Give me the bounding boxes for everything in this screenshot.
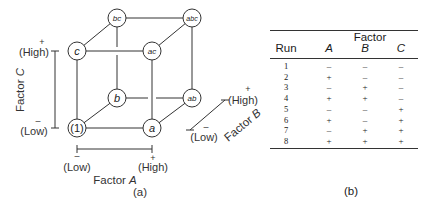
cell-a: – bbox=[319, 61, 339, 71]
figure-b-caption: (b) bbox=[344, 185, 358, 197]
factor-a-title: Factor A bbox=[93, 174, 137, 186]
cell-c: – bbox=[391, 72, 411, 82]
cell-a: + bbox=[319, 136, 339, 146]
cell-a: – bbox=[319, 104, 339, 114]
cube-node-abc: abc bbox=[183, 9, 201, 27]
cell-b: + bbox=[355, 136, 375, 146]
factor-a-low-sign: – bbox=[74, 151, 79, 161]
cell-c: – bbox=[391, 61, 411, 71]
cube-edges bbox=[77, 18, 192, 128]
cube-node-b: b bbox=[108, 89, 126, 107]
table-bottom-rule bbox=[270, 148, 418, 149]
cell-b: – bbox=[355, 104, 375, 114]
factor-b-high-label: (High) bbox=[228, 94, 258, 106]
cell-b: + bbox=[355, 93, 375, 103]
factor-c-axis bbox=[51, 51, 59, 128]
column-header-run: Run bbox=[270, 42, 302, 54]
column-header-c: C bbox=[391, 42, 411, 54]
cell-b: + bbox=[355, 125, 375, 135]
cell-c: – bbox=[391, 82, 411, 92]
cell-run: 7 bbox=[270, 125, 302, 135]
cell-a: – bbox=[319, 125, 339, 135]
cell-c: – bbox=[391, 93, 411, 103]
cell-b: – bbox=[355, 115, 375, 125]
cube-node-1: (1) bbox=[68, 119, 86, 137]
table-header-rule bbox=[270, 58, 418, 59]
cell-run: 2 bbox=[270, 72, 302, 82]
cube-node-ac: ac bbox=[143, 42, 161, 60]
cell-b: + bbox=[355, 82, 375, 92]
cube-node-c: c bbox=[68, 42, 86, 60]
factor-c-title: Factor C bbox=[14, 67, 26, 112]
cell-run: 4 bbox=[270, 93, 302, 103]
factor-a-axis bbox=[77, 145, 152, 153]
node-label: ac bbox=[148, 47, 156, 56]
cell-a: + bbox=[319, 93, 339, 103]
factor-c-high-label: (High) bbox=[19, 46, 49, 58]
cell-a: + bbox=[319, 115, 339, 125]
cube-node-ab: ab bbox=[183, 89, 201, 107]
cell-c: + bbox=[391, 136, 411, 146]
cube-nodes: (1)ababcacbcabc bbox=[68, 9, 201, 137]
node-label: a bbox=[149, 122, 155, 134]
factor-b-title: Factor B bbox=[222, 106, 263, 143]
cell-c: + bbox=[391, 115, 411, 125]
cell-a: – bbox=[319, 82, 339, 92]
node-label: (1) bbox=[70, 122, 83, 134]
cell-run: 5 bbox=[270, 104, 302, 114]
node-label: ab bbox=[188, 94, 197, 103]
factor-a-high-label: (High) bbox=[138, 161, 168, 173]
node-label: c bbox=[74, 45, 80, 57]
node-label: b bbox=[114, 92, 120, 104]
factor-a-low-label: (Low) bbox=[63, 161, 91, 173]
column-header-a: A bbox=[319, 42, 339, 54]
cube-diagram: (1)ababcacbcabc + (High) – (Low) Factor … bbox=[0, 0, 270, 210]
cell-a: + bbox=[319, 72, 339, 82]
cell-b: – bbox=[355, 61, 375, 71]
cube-node-bc: bc bbox=[108, 9, 126, 27]
figure-a-caption: (a) bbox=[133, 186, 147, 198]
cell-run: 8 bbox=[270, 136, 302, 146]
factor-b-high-sign: + bbox=[245, 84, 250, 94]
column-header-b: B bbox=[355, 42, 375, 54]
factor-c-low-label: (Low) bbox=[20, 125, 48, 137]
factor-b-low-label: (Low) bbox=[190, 131, 218, 143]
cube-node-a: a bbox=[143, 119, 161, 137]
cell-run: 3 bbox=[270, 82, 302, 92]
cell-run: 6 bbox=[270, 115, 302, 125]
cell-b: – bbox=[355, 72, 375, 82]
cell-c: + bbox=[391, 125, 411, 135]
cell-c: + bbox=[391, 104, 411, 114]
node-label: abc bbox=[186, 15, 198, 22]
node-label: bc bbox=[113, 14, 121, 23]
cell-run: 1 bbox=[270, 61, 302, 71]
